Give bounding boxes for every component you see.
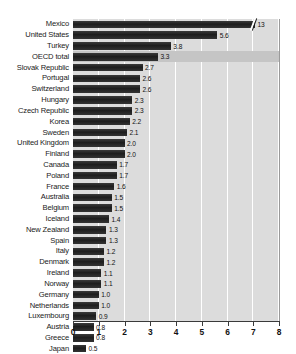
category-label: Portugal	[0, 73, 69, 84]
bar-row: Norway1.1	[0, 279, 296, 290]
bar-container: 3.8	[73, 41, 279, 52]
bar-container: 1.3	[73, 224, 279, 235]
category-label: United Kingdom	[0, 138, 69, 149]
bar-row: Poland1.7	[0, 170, 296, 181]
bar-row: United Kingdom2.0	[0, 138, 296, 149]
bar-container: 2.6	[73, 84, 279, 95]
bar-value-label: 1.3	[106, 235, 117, 246]
bar-value-label: 2.1	[127, 127, 138, 138]
bar-container: 1.5	[73, 203, 279, 214]
bar	[73, 118, 130, 126]
bar-container: 1.0	[73, 300, 279, 311]
bar-value-label: 1.7	[117, 160, 128, 171]
bar-container: 1.5	[73, 192, 279, 203]
bar-container: 1.4	[73, 214, 279, 225]
bar-value-label: 1.0	[99, 300, 110, 311]
bar-row: Australia1.5	[0, 192, 296, 203]
bar-row: Ireland1.1	[0, 268, 296, 279]
bar	[73, 204, 112, 212]
category-label: Korea	[0, 116, 69, 127]
bar	[73, 96, 132, 104]
bar	[73, 312, 96, 320]
bar	[73, 21, 255, 29]
bar-value-label: 1.2	[104, 257, 115, 268]
x-axis-tick-label: 1	[96, 327, 101, 337]
bar	[73, 150, 125, 158]
bar	[73, 64, 143, 72]
bar-value-label: 1.2	[104, 246, 115, 257]
bar-row: Finland2.0	[0, 149, 296, 160]
x-axis-tick-label: 7	[251, 327, 256, 337]
bar-value-label: 2.0	[125, 138, 136, 149]
bar-row: Hungary2.3	[0, 95, 296, 106]
bar-value-label: 2.6	[140, 73, 151, 84]
bar-row: Czech Republic2.3	[0, 106, 296, 117]
bar	[73, 172, 117, 180]
bar	[73, 291, 99, 299]
bar-row: Canada1.7	[0, 160, 296, 171]
category-label: Denmark	[0, 257, 69, 268]
bar-container: 0.5	[73, 343, 279, 354]
bar	[73, 161, 117, 169]
bar-value-label: 1.5	[112, 203, 123, 214]
bar	[73, 248, 104, 256]
x-axis-tick	[125, 322, 126, 326]
bar-container: 1.3	[73, 235, 279, 246]
bar	[73, 107, 132, 115]
x-axis-tick	[202, 322, 203, 326]
bar-value-label: 1.7	[117, 170, 128, 181]
bar-row: France1.6	[0, 181, 296, 192]
category-label: Norway	[0, 279, 69, 290]
category-label: United States	[0, 30, 69, 41]
bar	[73, 31, 217, 39]
bar	[73, 345, 86, 353]
bar-row: Belgium1.5	[0, 203, 296, 214]
category-label: Mexico	[0, 19, 69, 30]
bar-container: 2.1	[73, 127, 279, 138]
category-label: Poland	[0, 170, 69, 181]
bar-rows: Mexico13United States5.6Turkey3.8OECD to…	[0, 19, 296, 354]
bar	[73, 53, 158, 61]
category-label: Switzerland	[0, 84, 69, 95]
bar-container: 1.2	[73, 246, 279, 257]
bar-row: Italy1.2	[0, 246, 296, 257]
x-axis-tick	[228, 322, 229, 326]
x-axis-tick-label: 8	[277, 327, 282, 337]
bar-row: Switzerland2.6	[0, 84, 296, 95]
bar-value-label: 0.5	[86, 343, 97, 354]
bar-row: Germany1.0	[0, 289, 296, 300]
x-axis-tick-label: 6	[225, 327, 230, 337]
bar	[73, 139, 125, 147]
bar-value-label: 13	[255, 19, 265, 30]
bar	[73, 183, 114, 191]
category-label: Canada	[0, 160, 69, 171]
category-label: Sweden	[0, 127, 69, 138]
bar-value-label: 1.5	[112, 192, 123, 203]
bar-row: Denmark1.2	[0, 257, 296, 268]
bar	[73, 85, 140, 93]
bar-container: 1.2	[73, 257, 279, 268]
category-label: Luxembourg	[0, 311, 69, 322]
x-axis-tick-label: 3	[148, 327, 153, 337]
bar	[73, 237, 106, 245]
bar-value-label: 1.3	[106, 224, 117, 235]
bar-container: 13	[73, 19, 279, 30]
category-label: Slovak Republic	[0, 62, 69, 73]
bar-row: New Zealand1.3	[0, 224, 296, 235]
bar-row: United States5.6	[0, 30, 296, 41]
bar-row: Korea2.2	[0, 116, 296, 127]
bar-container: 2.0	[73, 138, 279, 149]
x-axis-tick-label: 5	[199, 327, 204, 337]
category-label: Czech Republic	[0, 106, 69, 117]
chart-title	[0, 0, 296, 7]
bar-container: 2.0	[73, 149, 279, 160]
category-label: Belgium	[0, 203, 69, 214]
bar-row: Sweden2.1	[0, 127, 296, 138]
bar	[73, 129, 127, 137]
bar-value-label: 1.1	[101, 279, 112, 290]
x-axis-tick	[176, 322, 177, 326]
bar-container: 1.7	[73, 160, 279, 171]
bar-row: Mexico13	[0, 19, 296, 30]
bar-value-label: 3.8	[171, 41, 182, 52]
